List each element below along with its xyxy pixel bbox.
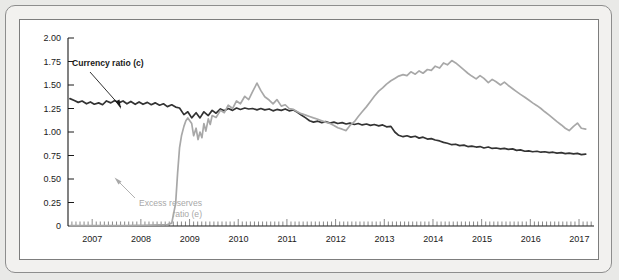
x-tick-label: 2009 bbox=[180, 234, 200, 244]
x-tick-label: 2008 bbox=[131, 234, 151, 244]
x-tick-label-group: 2007200820092010201120122013201420152016… bbox=[82, 234, 589, 244]
x-tick-label: 2014 bbox=[423, 234, 443, 244]
series-currency-ratio bbox=[70, 99, 586, 155]
x-axis: 2007200820092010201120122013201420152016… bbox=[68, 219, 594, 244]
x-tick-label: 2016 bbox=[521, 234, 541, 244]
y-tick-label: 1.25 bbox=[43, 104, 61, 114]
y-tick-label: 1.75 bbox=[43, 57, 61, 67]
x-tick-label: 2011 bbox=[277, 234, 296, 244]
y-tick-label: 0.50 bbox=[43, 174, 61, 184]
y-axis: 00.250.500.751.001.251.501.752.00 bbox=[43, 33, 74, 231]
x-tick-label: 2015 bbox=[472, 234, 492, 244]
line-chart: 00.250.500.751.001.251.501.752.00 200720… bbox=[20, 20, 600, 261]
y-tick-label: 1.00 bbox=[43, 127, 61, 137]
excess-reserves-label-line2: ratio (e) bbox=[172, 209, 202, 219]
x-tick-label: 2007 bbox=[82, 234, 102, 244]
x-tick-label: 2017 bbox=[569, 234, 589, 244]
x-tick-label: 2010 bbox=[228, 234, 248, 244]
annotation-excess-reserves: Excess reserves ratio (e) bbox=[115, 178, 203, 220]
y-tick-label: 1.50 bbox=[43, 80, 61, 90]
figure-frame: 00.250.500.751.001.251.501.752.00 200720… bbox=[5, 5, 612, 273]
x-tick-label: 2013 bbox=[375, 234, 395, 244]
y-tick-label: 0 bbox=[56, 221, 61, 231]
excess-reserves-label-line1: Excess reserves bbox=[139, 198, 202, 208]
y-tick-label: 2.00 bbox=[43, 33, 61, 43]
y-tick-label: 0.25 bbox=[43, 198, 61, 208]
currency-ratio-label: Currency ratio (c) bbox=[72, 58, 144, 68]
y-tick-label: 0.75 bbox=[43, 151, 61, 161]
y-tick-group: 00.250.500.751.001.251.501.752.00 bbox=[43, 33, 74, 231]
x-tick-label: 2012 bbox=[326, 234, 346, 244]
chart-plot-area: 00.250.500.751.001.251.501.752.00 200720… bbox=[19, 19, 599, 260]
